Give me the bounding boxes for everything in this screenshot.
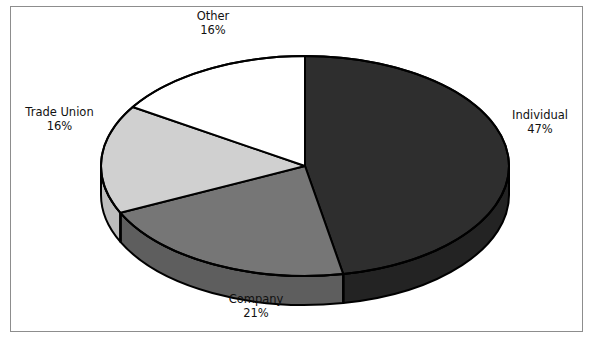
slice-label-company-name: Company	[186, 292, 326, 306]
slice-label-other-name: Other	[148, 9, 278, 23]
slice-label-trade-union-percent: 16%	[2, 119, 117, 133]
slice-label-trade-union-name: Trade Union	[2, 105, 117, 119]
slice-label-individual: Individual 47%	[488, 108, 592, 136]
pie-chart-figure: Other 16% Trade Union 16% Individual 47%…	[0, 0, 595, 348]
pie-slices-group	[101, 56, 509, 305]
slice-label-individual-name: Individual	[488, 108, 592, 122]
slice-label-company-percent: 21%	[186, 306, 326, 320]
slice-label-other: Other 16%	[148, 9, 278, 37]
slice-label-company: Company 21%	[186, 292, 326, 320]
slice-label-other-percent: 16%	[148, 23, 278, 37]
slice-label-individual-percent: 47%	[488, 122, 592, 136]
slice-label-trade-union: Trade Union 16%	[2, 105, 117, 133]
